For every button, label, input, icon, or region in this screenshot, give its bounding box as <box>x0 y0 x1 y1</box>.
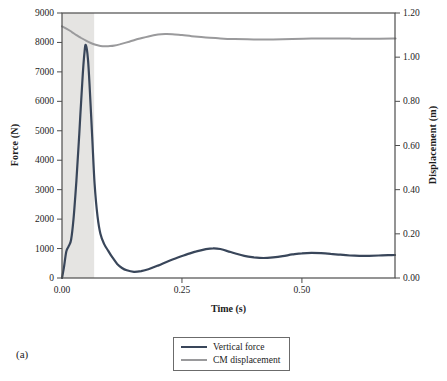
figure-panel-label: (a) <box>16 348 28 360</box>
y-right-tick-label: 0.60 <box>403 141 420 151</box>
y-right-tick-label: 0.40 <box>403 185 420 195</box>
figure: 01000200030004000500060007000800090000.0… <box>0 0 447 381</box>
y-right-tick-label: 0.00 <box>403 273 420 283</box>
y-axis-label-right: Displacement (m) <box>427 106 438 184</box>
y-left-tick-label: 6000 <box>35 96 54 106</box>
y-left-tick-label: 1000 <box>35 244 54 254</box>
legend-item-vertical-force: Vertical force <box>181 341 280 353</box>
y-left-tick-label: 9000 <box>35 8 54 18</box>
y-right-tick-label: 0.80 <box>403 96 420 106</box>
vertical-force-line-swatch <box>181 346 207 348</box>
y-left-tick-label: 5000 <box>35 126 54 136</box>
legend-label-vertical-force: Vertical force <box>213 341 264 353</box>
y-right-tick-label: 1.20 <box>403 8 420 18</box>
chart-svg: 01000200030004000500060007000800090000.0… <box>0 0 447 381</box>
y-axis-label-left: Force (N) <box>9 124 20 166</box>
x-axis-label: Time (s) <box>62 303 395 314</box>
y-left-tick-label: 4000 <box>35 155 54 165</box>
legend-item-cm-displacement: CM displacement <box>181 354 280 366</box>
y-left-tick-label: 7000 <box>35 67 54 77</box>
y-left-tick-label: 2000 <box>35 214 54 224</box>
legend: Vertical force CM displacement <box>173 337 290 371</box>
y-left-tick-label: 3000 <box>35 185 54 195</box>
vertical-force-line <box>62 45 395 278</box>
legend-label-cm-displacement: CM displacement <box>213 354 280 366</box>
y-left-tick-label: 8000 <box>35 37 54 47</box>
plot-frame <box>62 13 395 278</box>
x-tick-label: 0.50 <box>294 285 311 295</box>
y-left-tick-label: 0 <box>49 273 54 283</box>
x-tick-label: 0.25 <box>174 285 191 295</box>
cm-displacement-line-swatch <box>181 359 207 361</box>
x-tick-label: 0.00 <box>54 285 71 295</box>
y-right-tick-label: 1.00 <box>403 52 420 62</box>
cm-displacement-line <box>62 26 396 46</box>
y-right-tick-label: 0.20 <box>403 229 420 239</box>
